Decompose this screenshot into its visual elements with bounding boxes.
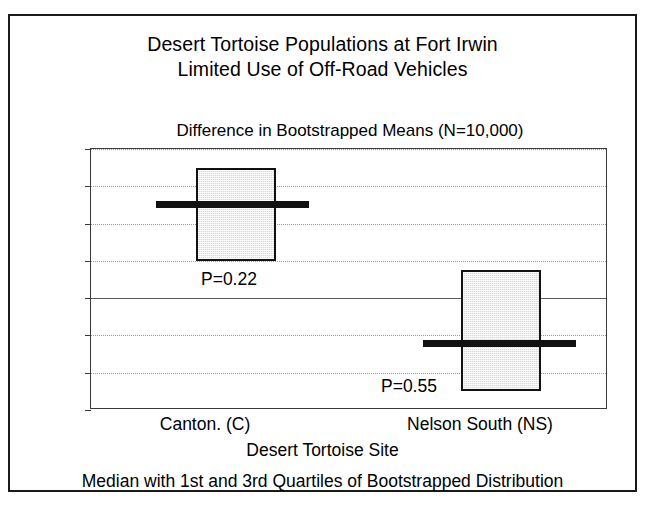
gridline-0.6 [91, 186, 606, 187]
gridline-0.2 [91, 261, 606, 262]
chart-title: Desert Tortoise Populations at Fort Irwi… [10, 32, 635, 82]
median-bar-canton [156, 201, 309, 208]
ytick-mark-neg0.2 [85, 335, 91, 336]
xtick-label-nelson-south: Nelson South (NS) [370, 416, 590, 434]
gridline-0.8 [91, 149, 606, 150]
gridline-0.4 [91, 224, 606, 225]
p-label-canton: P=0.22 [201, 271, 257, 289]
ytick-mark-0.4 [85, 224, 91, 225]
ytick-mark-0.8 [85, 149, 91, 150]
median-bar-nelson-south [423, 340, 576, 347]
p-label-nelson-south: P=0.55 [381, 378, 437, 396]
xaxis-title: Desert Tortoise Site [10, 440, 635, 461]
ytick-mark-0 [85, 298, 91, 299]
ytick-mark-0.2 [85, 261, 91, 262]
chart-title-line-2: Limited Use of Off-Road Vehicles [10, 57, 635, 82]
ytick-mark-neg0.6 [85, 410, 91, 411]
box-nelson-south [461, 270, 541, 391]
ytick-mark-neg0.4 [85, 373, 91, 374]
plot-heading: Difference in Bootstrapped Means (N=10,0… [90, 121, 610, 141]
figure-frame: Desert Tortoise Populations at Fort Irwi… [8, 14, 637, 492]
plot-area: 0.8 0.6 0.4 0.2 0 -0.2 -0.4 -0.6 P=0.22 … [90, 148, 607, 409]
chart-title-line-1: Desert Tortoise Populations at Fort Irwi… [10, 32, 635, 57]
ytick-mark-0.6 [85, 186, 91, 187]
footer-note: Median with 1st and 3rd Quartiles of Boo… [10, 471, 635, 492]
box-canton [196, 168, 276, 261]
xtick-label-canton: Canton. (C) [115, 416, 295, 434]
